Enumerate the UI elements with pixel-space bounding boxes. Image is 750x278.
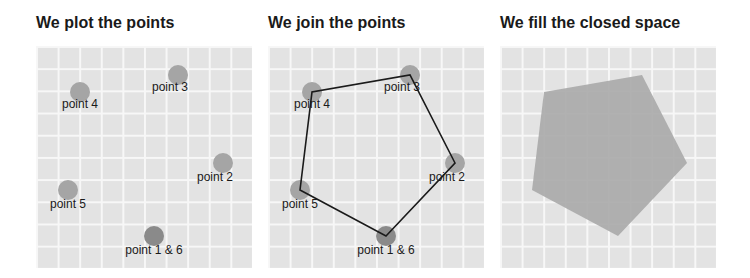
- point-label: point 1 & 6: [357, 243, 415, 257]
- point-label: point 5: [282, 197, 318, 211]
- panel-fill-space: We fill the closed space: [500, 0, 730, 278]
- point-label: point 2: [197, 170, 233, 184]
- panel-join-points: We join the points point 1 & 6point 2poi…: [268, 0, 498, 278]
- panel-title: We join the points: [268, 14, 405, 32]
- panel-title: We plot the points: [36, 14, 174, 32]
- plot-area: [500, 46, 716, 268]
- point-label: point 4: [294, 97, 330, 111]
- panel-title: We fill the closed space: [500, 14, 680, 32]
- point-label: point 3: [384, 80, 420, 94]
- point-label: point 5: [50, 197, 86, 211]
- point-label: point 4: [62, 97, 98, 111]
- polygon-fill-layer: [500, 46, 716, 268]
- polygon-outline-layer: point 1 & 6point 2point 3point 4point 5: [268, 46, 484, 268]
- points-layer: point 1 & 6point 2point 3point 4point 5: [36, 46, 252, 268]
- plot-area: point 1 & 6point 2point 3point 4point 5: [268, 46, 484, 268]
- point-label: point 1 & 6: [125, 243, 183, 257]
- point-label: point 3: [152, 80, 188, 94]
- panel-plot-points: We plot the points point 1 & 6point 2poi…: [36, 0, 266, 278]
- plot-area: point 1 & 6point 2point 3point 4point 5: [36, 46, 252, 268]
- filled-polygon: [532, 75, 687, 236]
- point-label: point 2: [429, 170, 465, 184]
